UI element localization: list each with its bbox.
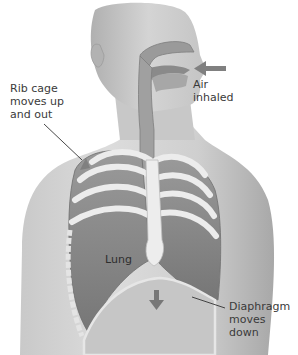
- lung-label: Lung: [105, 253, 132, 266]
- air-inhaled-label: Air inhaled: [193, 78, 234, 104]
- diaphragm-label: Diaphragm moves down: [229, 300, 298, 339]
- rib-cage-leader-line: [44, 124, 82, 160]
- rib-cage-label: Rib cage moves up and out: [10, 82, 64, 121]
